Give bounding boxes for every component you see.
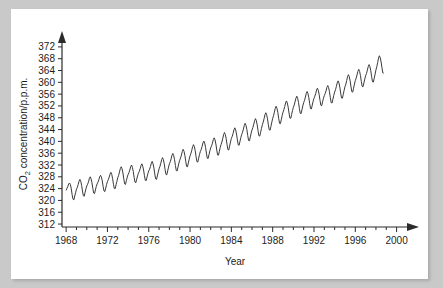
x-axis-title: Year (225, 256, 246, 267)
y-axis-arrow-icon (58, 31, 66, 43)
x-tick-label: 1968 (55, 235, 78, 246)
y-tick-label: 312 (38, 219, 55, 230)
x-tick-label-group: 196819721976198019841988199219962000 (55, 235, 408, 246)
x-tick-label: 2000 (385, 235, 408, 246)
y-tick-label: 320 (38, 195, 55, 206)
co2-series-line (66, 56, 384, 200)
x-tick-label: 1988 (262, 235, 285, 246)
x-tick-label: 1976 (138, 235, 161, 246)
y-tick-label: 360 (38, 77, 55, 88)
x-tick-label: 1972 (96, 235, 119, 246)
y-tick-label: 368 (38, 53, 55, 64)
y-tick-label: 364 (38, 65, 55, 76)
figure-root: 3123163203243283323363403443483523563603… (0, 0, 443, 288)
x-axis-arrow-icon (407, 223, 419, 231)
y-axis-title-rest: concentration/p.p.m. (18, 78, 29, 171)
y-tick-label: 332 (38, 160, 55, 171)
x-tick-group (66, 227, 396, 232)
y-tick-label: 336 (38, 148, 55, 159)
y-axis-title-text: CO2 concentration/p.p.m. (18, 78, 32, 191)
x-tick-label: 1992 (303, 235, 326, 246)
y-axis-title-main: CO (18, 175, 29, 190)
y-axis (58, 31, 66, 227)
x-tick-label: 1984 (220, 235, 243, 246)
y-tick-label: 316 (38, 207, 55, 218)
x-tick-label: 1980 (179, 235, 202, 246)
x-tick-label: 1996 (344, 235, 367, 246)
y-tick-label: 340 (38, 136, 55, 147)
y-tick-label: 348 (38, 112, 55, 123)
y-tick-label: 344 (38, 124, 55, 135)
chart-panel: 3123163203243283323363403443483523563603… (11, 9, 428, 279)
y-axis-title: CO2 concentration/p.p.m. (18, 78, 32, 191)
y-tick-label: 352 (38, 100, 55, 111)
y-tick-label-group: 3123163203243283323363403443483523563603… (38, 41, 55, 229)
y-tick-label: 328 (38, 171, 55, 182)
y-tick-label: 324 (38, 183, 55, 194)
y-tick-label: 372 (38, 41, 55, 52)
co2-concentration-line-chart: 3123163203243283323363403443483523563603… (11, 9, 428, 279)
y-tick-label: 356 (38, 89, 55, 100)
